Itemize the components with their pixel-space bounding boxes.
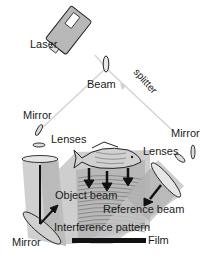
hologram-diagram: Laser Beam splitter Mirror Lenses Mirror…	[0, 0, 213, 264]
label-film: Film	[148, 235, 169, 246]
label-mirror-left-top: Mirror	[23, 110, 52, 121]
label-lenses-right: Lenses	[143, 146, 178, 157]
label-laser: Laser	[30, 39, 58, 50]
laser-device	[42, 6, 91, 59]
label-lenses-left: Lenses	[51, 134, 86, 145]
label-interference-pattern: Interference pattern	[54, 222, 150, 233]
label-mirror-bottom: Mirror	[12, 237, 41, 248]
label-object-beam: Object beam	[55, 190, 117, 201]
mirror-right	[191, 145, 195, 159]
label-mirror-right: Mirror	[171, 128, 200, 139]
lens-left-large	[22, 156, 58, 163]
beam-splitter	[103, 56, 109, 72]
lens-left-small	[33, 143, 45, 147]
film-plate	[72, 238, 146, 243]
label-beam: Beam	[87, 79, 116, 90]
label-reference-beam: Reference beam	[103, 204, 184, 215]
mirror-left-top	[34, 124, 43, 136]
